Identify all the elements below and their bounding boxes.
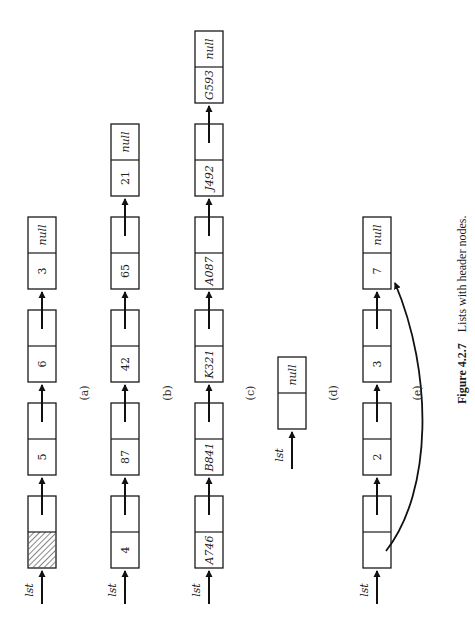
header-node: A746 (195, 478, 223, 568)
lists-layer: lst563nulllst487426521nulllstA746B841K32… (23, 31, 423, 604)
list-node: 3null (28, 217, 56, 289)
list-b: lst487426521null (106, 124, 140, 604)
list-pointer-label: lst (190, 583, 203, 597)
node-info: 4 (119, 547, 132, 554)
node-info: A746 (203, 536, 216, 566)
sublabel-d: (d) (327, 385, 340, 401)
header-node (363, 478, 391, 568)
node-next-null: null (203, 38, 216, 60)
node-info: 3 (371, 361, 384, 368)
list-a: lst563null (23, 217, 57, 604)
node-info: B841 (203, 442, 216, 472)
node-next-null: null (371, 224, 384, 246)
header-node: 4 (111, 478, 139, 568)
node-info: 87 (119, 450, 132, 464)
caption-number: Figure 4.2.7 (455, 343, 469, 404)
list-node: 21null (111, 124, 139, 196)
node-info: 5 (36, 454, 49, 461)
caption-text: Lists with header nodes. (455, 216, 469, 333)
node-info: 2 (371, 454, 384, 461)
sublabel-e: (e) (411, 385, 424, 400)
sublabel-c: (c) (244, 386, 257, 401)
list-node: 2 (363, 385, 391, 475)
list-node: 6 (28, 292, 56, 382)
node-info: 7 (371, 268, 384, 275)
list-node: K321 (195, 292, 223, 382)
node-info: 6 (36, 361, 49, 368)
list-node: 3 (363, 292, 391, 382)
sublabel-a: (a) (78, 385, 91, 400)
list-pointer-label: lst (23, 583, 36, 597)
list-node: J492 (195, 106, 223, 196)
node-info: K321 (203, 349, 216, 379)
hatched-info-field (29, 532, 56, 567)
node-info: A087 (203, 257, 216, 287)
list-e: lst237null (358, 217, 423, 604)
list-d: lstnull (273, 357, 307, 469)
list-node: 87 (111, 385, 139, 475)
list-pointer-label: lst (273, 448, 286, 462)
node-next-null: null (36, 224, 49, 246)
node-info: G593 (203, 70, 216, 100)
node-info: 42 (119, 357, 132, 371)
node-next-null: null (119, 131, 132, 153)
list-node: 7null (363, 217, 391, 289)
linked-lists-figure: lst563nulllst487426521nulllstA746B841K32… (0, 0, 475, 626)
list-node: G593null (195, 31, 223, 103)
list-node: A087 (195, 199, 223, 289)
node-info: 21 (119, 171, 132, 185)
node-info: 65 (119, 264, 132, 278)
list-node: 5 (28, 385, 56, 475)
list-node: 65 (111, 199, 139, 289)
node-next-null: null (286, 364, 299, 386)
list-pointer-label: lst (358, 583, 371, 597)
header-node (28, 478, 56, 568)
list-c: lstA746B841K321A087J492G593null (190, 31, 224, 604)
sublabel-b: (b) (161, 385, 174, 401)
list-node: null (278, 357, 306, 429)
list-node: B841 (195, 385, 223, 475)
node-info: J492 (203, 165, 216, 192)
list-pointer-label: lst (106, 583, 119, 597)
figure-caption: Figure 4.2.7 Lists with header nodes. (455, 216, 469, 404)
list-node: 42 (111, 292, 139, 382)
node-info: 3 (36, 268, 49, 275)
